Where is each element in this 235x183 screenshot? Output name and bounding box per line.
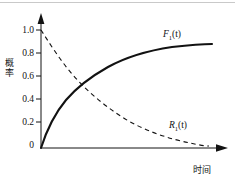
axis-arrow-up-icon <box>38 13 45 24</box>
chart-canvas <box>0 0 235 183</box>
x-axis-title: 时间 <box>193 163 211 176</box>
curve-label-R1: R1(t) <box>169 120 187 132</box>
y-tick-label-origin: 0 <box>0 140 34 150</box>
curve-failure-F1 <box>41 44 212 148</box>
y-tick-label-3: 0.8 <box>0 48 34 58</box>
curve-label-F1: F1(t) <box>163 29 181 41</box>
axis-arrow-right-icon <box>216 144 228 151</box>
y-tick-label-0: 0.2 <box>0 117 34 127</box>
y-tick-label-1: 0.4 <box>0 94 34 104</box>
curve-label-F1-arg: (t) <box>172 29 181 39</box>
y-tick-marks <box>36 30 41 122</box>
y-axis-title: 概率 <box>2 58 16 78</box>
y-tick-label-4: 1.0 <box>0 25 34 35</box>
curve-label-R1-arg: (t) <box>178 120 187 130</box>
